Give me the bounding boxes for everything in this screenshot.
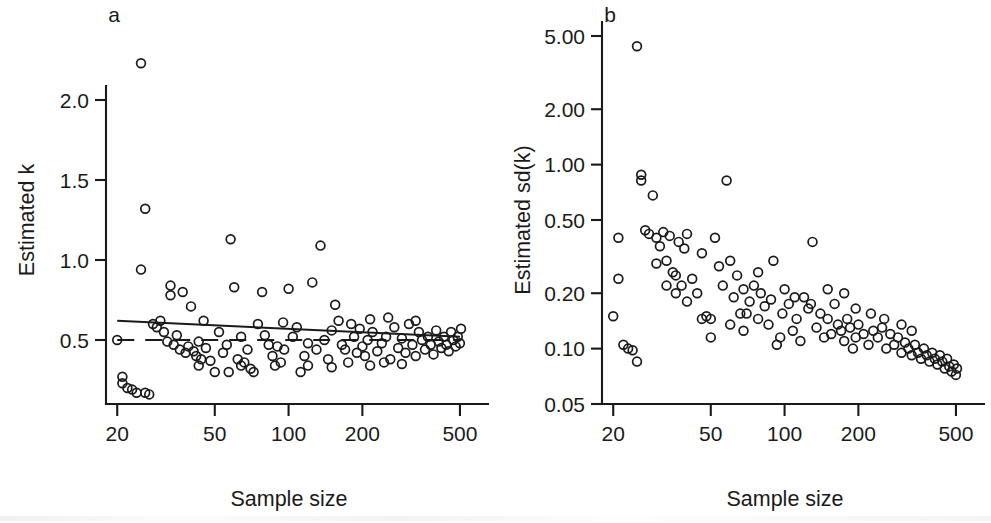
y-tick-label: 0.20: [544, 282, 585, 305]
data-point: [226, 235, 235, 244]
data-points: [113, 59, 466, 399]
data-point: [827, 330, 836, 339]
data-point: [742, 309, 751, 318]
data-point: [137, 59, 146, 68]
x-tick-label: 500: [938, 422, 973, 445]
data-point: [398, 334, 407, 343]
figure-two-panel-scatter: 0.51.01.52.02050100200500Sample sizeEsti…: [0, 0, 991, 523]
data-point: [854, 320, 863, 329]
scan-artifact: [0, 516, 991, 521]
data-point: [230, 283, 239, 292]
data-point: [693, 289, 702, 298]
data-point: [788, 326, 797, 335]
y-tick-label: 0.10: [544, 337, 585, 360]
data-point: [222, 340, 231, 349]
data-point: [792, 315, 801, 324]
y-tick-label: 0.05: [544, 393, 585, 416]
panel-a-plot: 0.51.01.52.02050100200500Sample sizeEsti…: [0, 0, 495, 523]
x-tick-label: 20: [106, 422, 129, 445]
data-points: [609, 42, 962, 380]
data-point: [331, 300, 340, 309]
y-tick-label: 1.00: [544, 153, 585, 176]
x-tick-label: 20: [602, 422, 625, 445]
data-point: [224, 368, 233, 377]
data-point: [304, 361, 313, 370]
data-point: [296, 368, 305, 377]
panel-a: 0.51.01.52.02050100200500Sample sizeEsti…: [0, 0, 495, 523]
data-point: [401, 348, 410, 357]
data-point: [194, 337, 203, 346]
data-point: [361, 352, 370, 361]
data-point: [739, 326, 748, 335]
data-point: [316, 241, 325, 250]
data-point: [390, 323, 399, 332]
data-point: [141, 204, 150, 213]
data-point: [633, 357, 642, 366]
data-point: [398, 360, 407, 369]
data-point: [172, 331, 181, 340]
data-point: [840, 289, 849, 298]
x-tick-label: 100: [271, 422, 306, 445]
data-point: [264, 340, 273, 349]
data-point: [166, 291, 175, 300]
panel-b-plot: 0.050.100.200.501.002.005.00205010020050…: [496, 0, 991, 523]
data-point: [366, 361, 375, 370]
data-point: [408, 340, 417, 349]
y-tick-label: 2.0: [60, 89, 89, 112]
data-point: [432, 326, 441, 335]
data-point: [648, 191, 657, 200]
data-point: [796, 337, 805, 346]
data-point: [210, 368, 219, 377]
data-point: [711, 233, 720, 242]
data-point: [880, 315, 889, 324]
y-tick-label: 0.50: [544, 209, 585, 232]
data-point: [790, 293, 799, 302]
data-point: [867, 309, 876, 318]
data-point: [715, 262, 724, 271]
data-point: [178, 288, 187, 297]
data-point: [187, 302, 196, 311]
panel-b: 0.050.100.200.501.002.005.00205010020050…: [496, 0, 991, 523]
y-tick-label: 0.5: [60, 329, 89, 352]
x-tick-label: 200: [345, 422, 380, 445]
data-point: [652, 259, 661, 268]
data-point: [637, 176, 646, 185]
data-point: [830, 300, 839, 309]
y-axis-label: Estimated k: [15, 164, 39, 277]
data-point: [776, 333, 785, 342]
data-point: [260, 331, 269, 340]
data-point: [780, 285, 789, 294]
data-point: [656, 242, 665, 251]
data-point: [421, 345, 430, 354]
data-point: [614, 233, 623, 242]
data-point: [864, 340, 873, 349]
data-point: [300, 352, 309, 361]
panel-label-a: a: [108, 3, 120, 26]
data-point: [706, 333, 715, 342]
y-axis-label: Estimated sd(k): [511, 145, 535, 294]
data-point: [411, 352, 420, 361]
data-point: [840, 337, 849, 346]
data-point: [698, 249, 707, 258]
data-point: [671, 289, 680, 298]
data-point: [764, 320, 773, 329]
data-point: [334, 316, 343, 325]
data-point: [726, 256, 735, 265]
data-point: [268, 352, 277, 361]
data-point: [312, 345, 321, 354]
data-point: [614, 274, 623, 283]
data-point: [327, 363, 336, 372]
data-point: [677, 281, 686, 290]
data-point: [243, 345, 252, 354]
data-point: [722, 176, 731, 185]
data-point: [344, 358, 353, 367]
data-point: [843, 315, 852, 324]
data-point: [745, 297, 754, 306]
data-point: [688, 274, 697, 283]
panel-label-b: b: [604, 3, 616, 26]
data-point: [756, 289, 765, 298]
data-point: [308, 278, 317, 287]
data-point: [718, 281, 727, 290]
x-tick-label: 500: [442, 422, 477, 445]
data-point: [384, 313, 393, 322]
